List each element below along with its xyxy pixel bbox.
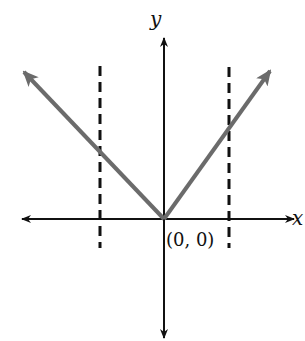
curve-left-ray [24, 72, 164, 219]
curve-right-ray [164, 71, 270, 219]
x-axis-label: x [292, 206, 303, 230]
y-axis-label: y [149, 7, 162, 31]
graph-canvas: y x (0, 0) [0, 0, 305, 341]
origin-label: (0, 0) [166, 229, 214, 250]
